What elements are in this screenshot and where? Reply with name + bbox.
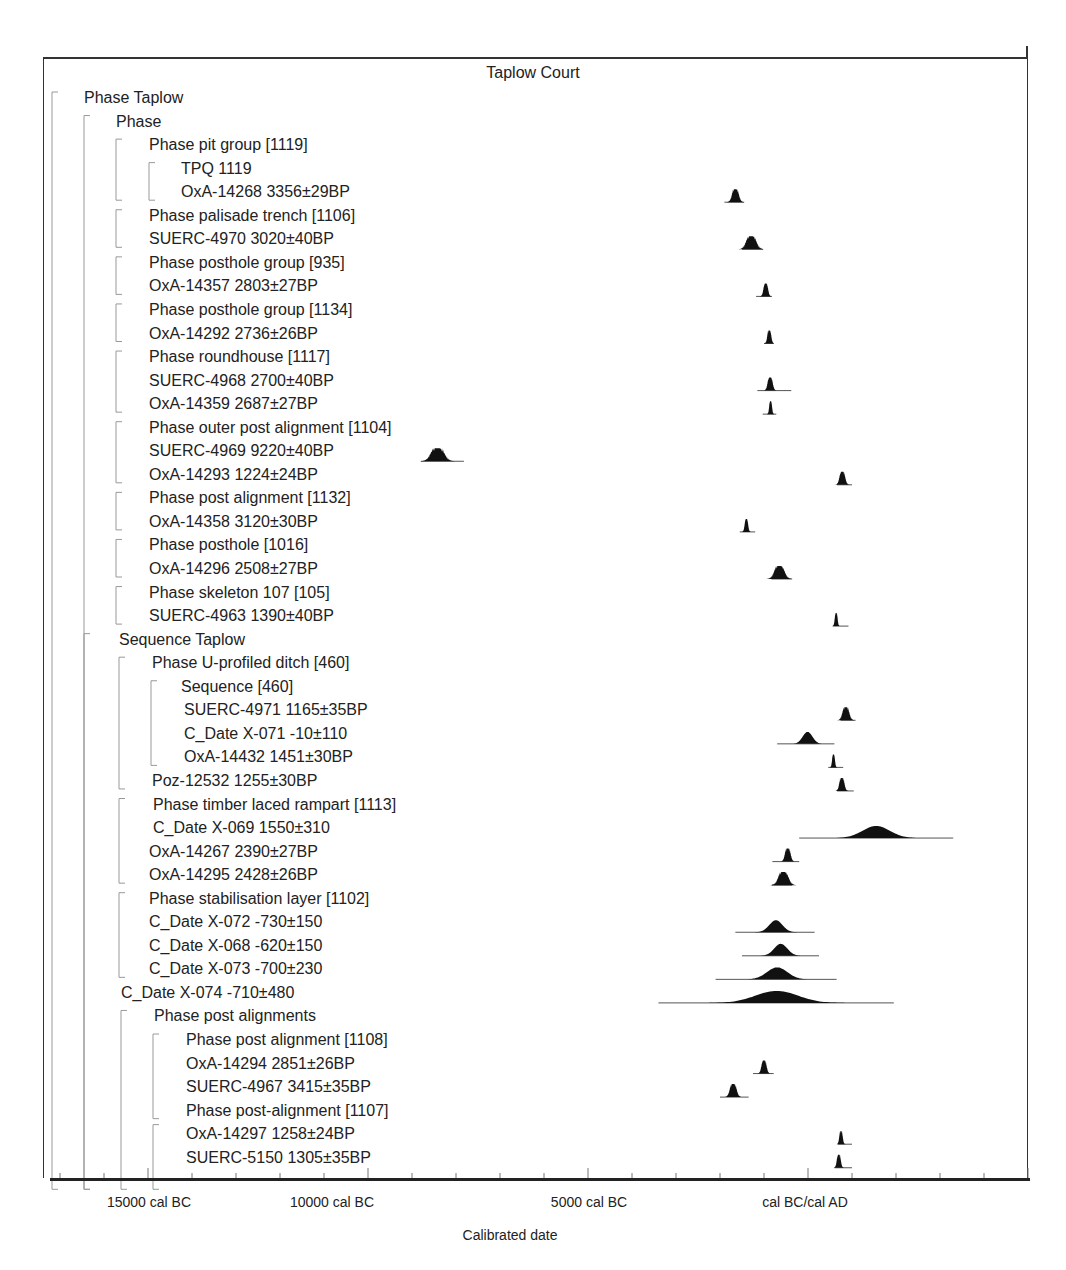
probability-distribution xyxy=(760,283,771,296)
probability-distribution xyxy=(725,1084,742,1097)
probability-distribution xyxy=(739,236,764,249)
probability-distribution xyxy=(767,566,792,579)
probability-distribution xyxy=(834,1155,844,1168)
group-bracket xyxy=(153,1034,159,1119)
group-bracket xyxy=(116,351,122,412)
plot-area xyxy=(0,0,1066,1270)
probability-distribution xyxy=(837,707,854,720)
group-bracket xyxy=(116,422,122,483)
probability-distribution xyxy=(421,448,455,461)
probability-distribution xyxy=(792,732,823,744)
group-bracket xyxy=(84,634,90,1190)
x-tick-label: cal BC/cal AD xyxy=(762,1194,848,1210)
group-bracket xyxy=(84,116,90,1190)
probability-distribution xyxy=(727,189,744,202)
probability-distribution xyxy=(833,613,840,626)
x-tick-label: 15000 cal BC xyxy=(107,1194,191,1210)
group-bracket xyxy=(121,1010,127,1189)
probability-distribution xyxy=(830,754,837,767)
group-bracket xyxy=(116,539,122,577)
group-bracket xyxy=(116,139,122,200)
group-bracket xyxy=(116,304,122,342)
probability-distribution xyxy=(836,778,849,791)
x-axis-line xyxy=(50,1178,1030,1181)
probability-distribution xyxy=(760,944,802,956)
group-bracket xyxy=(119,799,125,884)
group-bracket xyxy=(149,163,155,201)
probability-distribution xyxy=(758,1061,771,1074)
probability-distribution xyxy=(755,920,797,932)
x-tick-label: 10000 cal BC xyxy=(290,1194,374,1210)
probability-distribution xyxy=(742,519,750,532)
group-bracket xyxy=(151,681,157,766)
probability-distribution xyxy=(771,872,796,885)
group-bracket xyxy=(119,657,125,789)
group-bracket xyxy=(116,587,122,625)
x-tick-label: 5000 cal BC xyxy=(551,1194,627,1210)
probability-distribution xyxy=(781,849,795,862)
x-axis-title: Calibrated date xyxy=(463,1227,558,1243)
probability-distribution xyxy=(835,472,849,485)
probability-distribution xyxy=(764,331,774,344)
probability-distribution xyxy=(764,378,777,391)
group-bracket xyxy=(119,893,125,978)
probability-distribution xyxy=(837,1131,845,1144)
group-bracket xyxy=(116,257,122,295)
probability-distribution xyxy=(767,401,774,414)
group-bracket xyxy=(52,92,58,1189)
probability-distribution xyxy=(745,967,810,979)
group-bracket xyxy=(116,492,122,530)
probability-distribution xyxy=(709,991,844,1003)
probability-distribution xyxy=(833,826,920,838)
group-bracket xyxy=(116,210,122,248)
